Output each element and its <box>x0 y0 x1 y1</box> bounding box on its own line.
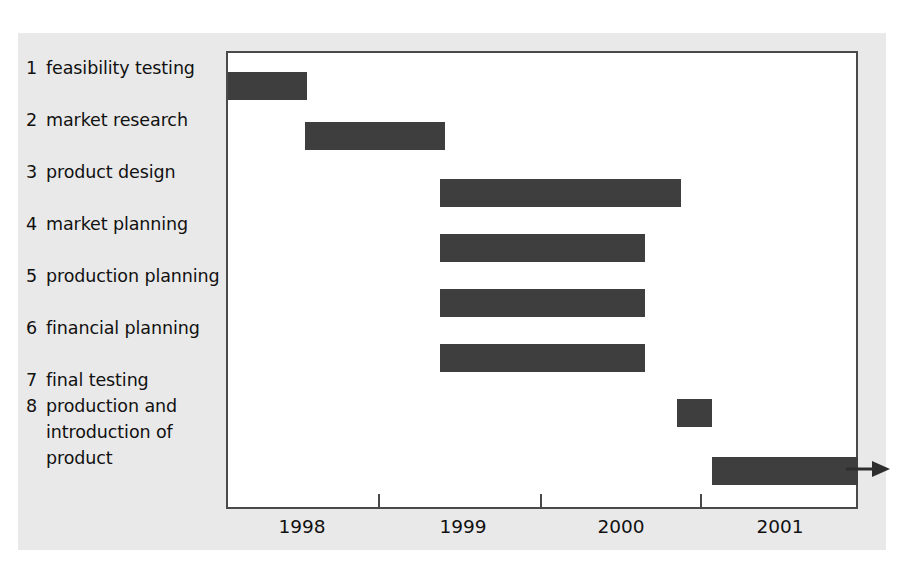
task-name: market research <box>46 107 222 133</box>
task-name: market planning <box>46 211 222 237</box>
task-number: 5 <box>26 263 46 289</box>
task-label-row: 8 production and introduction of product <box>26 393 222 471</box>
task-name: product design <box>46 159 222 185</box>
task-label-row: 1 feasibility testing <box>26 55 222 81</box>
axis-tick-mark <box>540 494 542 507</box>
chart-plot-area <box>226 51 858 509</box>
task-label-row: 6 financial planning <box>26 315 222 341</box>
task-number: 2 <box>26 107 46 133</box>
task-name: financial planning <box>46 315 222 341</box>
gantt-bar <box>677 399 712 427</box>
gantt-bar <box>440 234 645 262</box>
task-label-row: 4 market planning <box>26 211 222 237</box>
gantt-bar <box>305 122 445 150</box>
task-number: 4 <box>26 211 46 237</box>
task-number: 6 <box>26 315 46 341</box>
task-label-row: 5 production planning <box>26 263 222 289</box>
axis-tick-mark <box>700 494 702 507</box>
plot-inner <box>228 53 856 507</box>
task-label-row: 3 product design <box>26 159 222 185</box>
axis-tick-label: 2000 <box>597 512 644 542</box>
task-label-row: 7 final testing <box>26 367 222 393</box>
axis-tick-label-row: 1998 1999 2000 2001 <box>226 512 886 548</box>
gantt-chart-figure: 1 feasibility testing 2 market research … <box>0 0 904 565</box>
task-number: 7 <box>26 367 46 393</box>
axis-tick-label: 1998 <box>278 512 325 542</box>
task-name: feasibility testing <box>46 55 222 81</box>
task-number: 3 <box>26 159 46 185</box>
gantt-bar <box>440 344 645 372</box>
gantt-bar-continuing <box>712 457 858 485</box>
task-name: final testing <box>46 367 222 393</box>
axis-tick-label: 2001 <box>756 512 803 542</box>
task-name: production and introduction of product <box>46 393 222 471</box>
axis-tick-label: 1999 <box>439 512 486 542</box>
gantt-bar <box>440 289 645 317</box>
gantt-bar <box>440 179 681 207</box>
task-name: production planning <box>46 263 222 289</box>
task-number: 1 <box>26 55 46 81</box>
task-label-row: 2 market research <box>26 107 222 133</box>
axis-tick-mark <box>378 494 380 507</box>
task-number: 8 <box>26 393 46 419</box>
task-label-column: 1 feasibility testing 2 market research … <box>26 55 222 505</box>
gantt-bar <box>228 72 307 100</box>
continuation-arrow-icon <box>846 458 892 480</box>
